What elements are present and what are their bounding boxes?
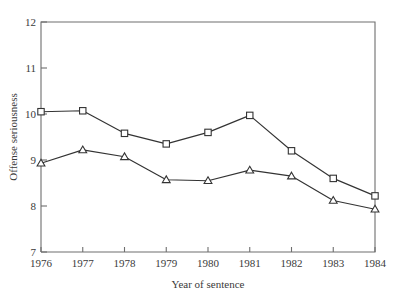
x-tick-label: 1981 [239, 257, 261, 269]
marker-square [330, 175, 336, 181]
marker-square [372, 193, 378, 199]
marker-square [247, 112, 253, 118]
y-axis-title: Offense seriousness [7, 93, 19, 180]
offense-seriousness-line-chart: 789101112 197619771978197919801981198219… [0, 0, 401, 297]
marker-triangle [162, 176, 170, 183]
marker-square [288, 148, 294, 154]
marker-triangle [246, 166, 254, 173]
x-tick-label: 1984 [364, 257, 387, 269]
y-tick-label: 10 [25, 108, 37, 120]
x-tick-label: 1983 [322, 257, 345, 269]
marker-triangle [79, 146, 87, 153]
marker-square [205, 129, 211, 135]
axes [41, 22, 375, 252]
series-lower-series [37, 146, 379, 212]
x-axis-title: Year of sentence [172, 278, 245, 290]
y-tick-label: 8 [31, 200, 37, 212]
marker-square [163, 141, 169, 147]
marker-square [38, 109, 44, 115]
marker-square [80, 108, 86, 114]
marker-triangle [329, 197, 337, 204]
y-tick-label: 9 [31, 154, 37, 166]
x-tick-label: 1977 [72, 257, 95, 269]
x-tick-label: 1978 [114, 257, 137, 269]
y-tick-labels: 789101112 [25, 16, 37, 258]
data-series [37, 108, 379, 212]
y-tick-label: 11 [25, 62, 36, 74]
plot-frame [41, 22, 375, 252]
marker-square [121, 130, 127, 136]
x-tick-labels: 197619771978197919801981198219831984 [30, 257, 387, 269]
x-tick-label: 1976 [30, 257, 53, 269]
x-tick-label: 1982 [281, 257, 303, 269]
x-tick-label: 1979 [155, 257, 178, 269]
x-tick-label: 1980 [197, 257, 220, 269]
axis-ticks [41, 22, 375, 252]
y-tick-label: 12 [25, 16, 36, 28]
series-upper-series [38, 108, 378, 199]
chart-figure: 789101112 197619771978197919801981198219… [0, 0, 401, 297]
